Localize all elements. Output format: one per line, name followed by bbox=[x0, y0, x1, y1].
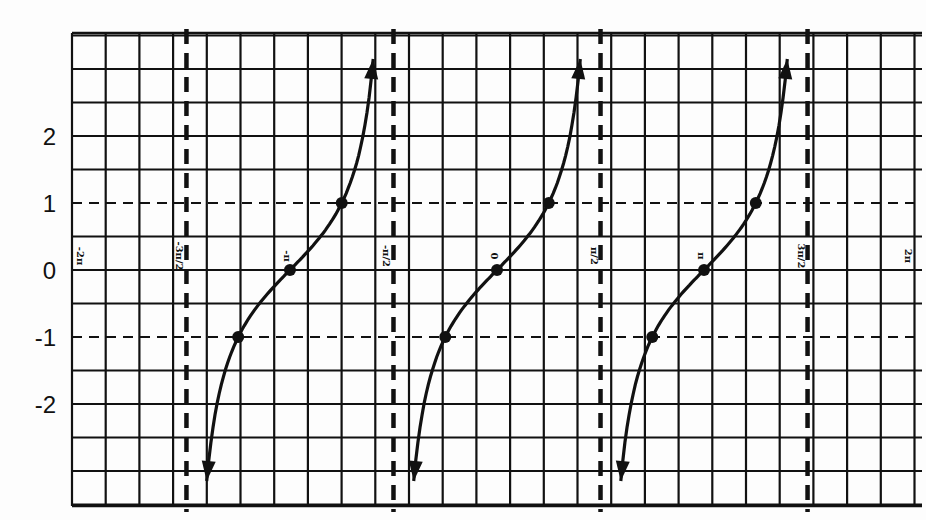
x-tick-label: 2π bbox=[903, 249, 914, 263]
x-tick-label: π bbox=[696, 252, 707, 259]
data-point-marker bbox=[698, 264, 710, 276]
x-tick-label: -π/2 bbox=[381, 245, 392, 267]
x-tick-label: π/2 bbox=[589, 247, 600, 265]
tangent-curves bbox=[202, 59, 792, 481]
data-point-marker bbox=[284, 264, 296, 276]
y-tick-label: 0 bbox=[43, 257, 56, 284]
x-tick-label: -π bbox=[282, 250, 293, 261]
data-point-marker bbox=[750, 197, 762, 209]
data-point-marker bbox=[336, 197, 348, 209]
x-tick-label: 0 bbox=[489, 253, 500, 260]
y-tick-label: -2 bbox=[35, 391, 56, 418]
y-tick-label: 2 bbox=[43, 123, 56, 150]
x-tick-label: -2π bbox=[75, 247, 86, 265]
y-axis-tick-labels: 210-1-2 bbox=[35, 123, 56, 418]
data-point-marker bbox=[491, 264, 503, 276]
x-tick-label: -3π/2 bbox=[174, 241, 185, 270]
y-tick-label: 1 bbox=[43, 190, 56, 217]
data-point-marker bbox=[543, 197, 555, 209]
data-point-marker bbox=[646, 331, 658, 343]
y-tick-label: -1 bbox=[35, 324, 56, 351]
data-point-marker bbox=[439, 331, 451, 343]
tangent-graph: 210-1-2 -2π-3π/2-π-π/20π/2π3π/22π bbox=[0, 0, 926, 520]
x-tick-label: 3π/2 bbox=[796, 244, 807, 269]
data-point-marker bbox=[232, 331, 244, 343]
